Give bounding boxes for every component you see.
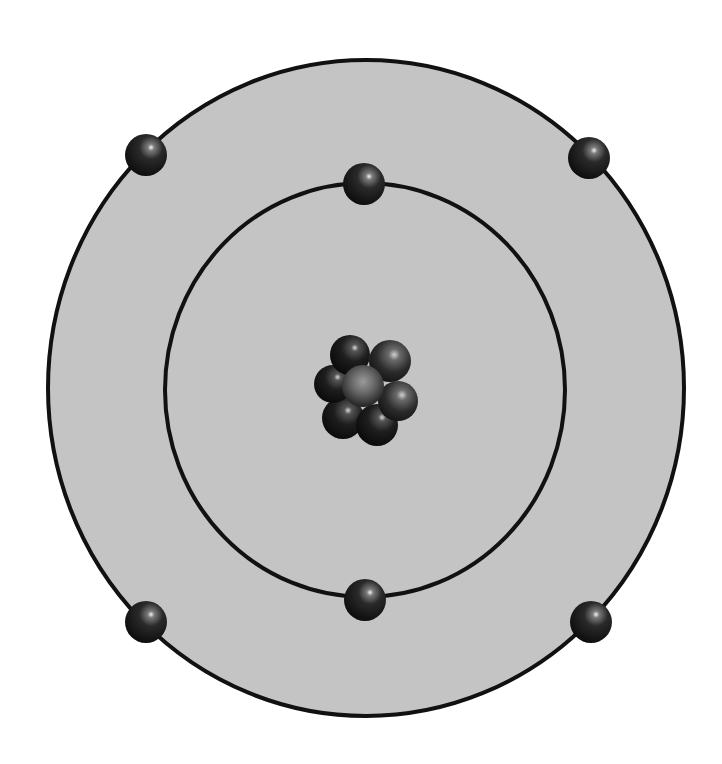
electron-outer-top-left (125, 134, 167, 176)
nucleon-7 (342, 365, 384, 407)
electron-inner-bottom (344, 579, 386, 621)
electron-inner-top (343, 163, 385, 205)
electron-outer-bottom-left (125, 601, 167, 643)
nucleon-4 (378, 381, 418, 421)
atom-diagram (0, 0, 722, 764)
electron-outer-bottom-right (570, 601, 612, 643)
electron-outer-top-right (568, 137, 610, 179)
